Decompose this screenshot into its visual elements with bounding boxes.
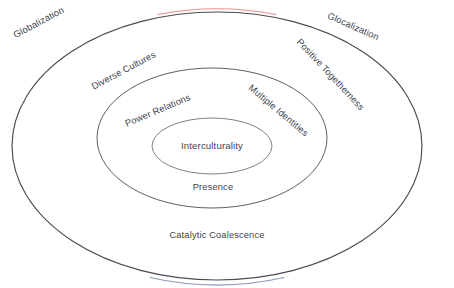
- label-interculturality: Interculturality: [181, 141, 243, 151]
- diagram-canvas: Globalization Glocalization Diverse Cult…: [0, 0, 454, 288]
- label-presence: Presence: [193, 183, 233, 192]
- label-catalytic-coalescence: Catalytic Coalescence: [169, 231, 264, 240]
- outer-ellipse-bottom-accent: [150, 278, 284, 285]
